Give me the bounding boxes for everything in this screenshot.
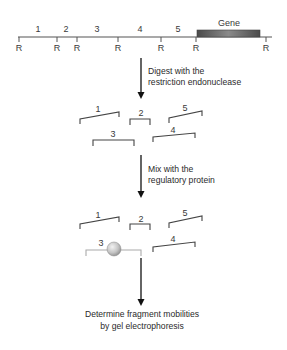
step-electrophoresis-line2: by gel electrophoresis bbox=[100, 321, 184, 331]
digested-label-3: 3 bbox=[110, 129, 115, 139]
site-label-r: R bbox=[54, 43, 61, 53]
bound-label-2: 2 bbox=[138, 214, 143, 224]
step-digest: Digest with the restriction endonuclease bbox=[138, 58, 242, 99]
arrow-down-icon bbox=[138, 191, 145, 198]
site-label-r: R bbox=[16, 43, 23, 53]
restriction-map: Gene R R R R R R R 1 2 3 4 5 bbox=[16, 18, 272, 53]
arrow-down-icon bbox=[138, 92, 145, 99]
fragment-number-4: 4 bbox=[137, 24, 142, 34]
gene-bar bbox=[197, 30, 260, 37]
fragment-2 bbox=[130, 224, 150, 230]
digested-label-2: 2 bbox=[138, 108, 143, 118]
fragment-number-1: 1 bbox=[35, 24, 40, 34]
bound-label-1: 1 bbox=[95, 210, 100, 220]
site-label-r: R bbox=[158, 43, 165, 53]
step-digest-line1: Digest with the bbox=[148, 66, 205, 76]
digested-label-5: 5 bbox=[182, 103, 187, 113]
fragment-number-5: 5 bbox=[175, 24, 180, 34]
gel-shift-assay-diagram: Gene R R R R R R R 1 2 3 4 5 Digest with… bbox=[0, 0, 287, 350]
step-mix-line1: Mix with the bbox=[148, 164, 194, 174]
site-label-r: R bbox=[115, 43, 122, 53]
fragment-2 bbox=[130, 119, 150, 125]
bound-label-5: 5 bbox=[182, 208, 187, 218]
bound-label-3: 3 bbox=[98, 238, 103, 248]
bound-label-4: 4 bbox=[170, 234, 175, 244]
gene-label: Gene bbox=[218, 18, 240, 28]
digested-label-4: 4 bbox=[170, 125, 175, 135]
fragment-number-3: 3 bbox=[94, 24, 99, 34]
step-mix: Mix with the regulatory protein bbox=[138, 155, 216, 198]
step-mix-line2: regulatory protein bbox=[148, 175, 215, 185]
fragment-number-2: 2 bbox=[63, 24, 68, 34]
digested-label-1: 1 bbox=[95, 104, 100, 114]
step-digest-line2: restriction endonuclease bbox=[148, 77, 241, 87]
site-label-r: R bbox=[74, 43, 81, 53]
fragment-3 bbox=[93, 140, 134, 146]
step-electrophoresis: Determine fragment mobilities by gel ele… bbox=[85, 258, 199, 331]
step-electrophoresis-line1: Determine fragment mobilities bbox=[85, 309, 199, 319]
site-label-r: R bbox=[193, 43, 200, 53]
site-label-r: R bbox=[263, 43, 270, 53]
regulatory-protein-ball bbox=[107, 242, 121, 256]
arrow-down-icon bbox=[138, 299, 145, 306]
